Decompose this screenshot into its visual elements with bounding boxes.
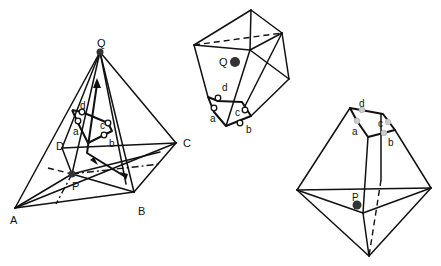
label-a: a (73, 126, 79, 137)
label-C: C (183, 137, 191, 149)
point-Q (97, 49, 104, 56)
diagram-canvas: Q A B C D P d a c b Q d a c b (0, 0, 441, 266)
label-D: D (56, 140, 64, 152)
node-b (101, 132, 107, 138)
label-d-right: d (359, 98, 365, 109)
label-Q-middle: Q (219, 56, 228, 68)
middle-polyhedron: Q d a c b (194, 10, 289, 135)
label-b-middle: b (246, 124, 252, 135)
label-A: A (10, 214, 18, 226)
point-Q-middle (230, 57, 240, 67)
node-a (75, 118, 81, 124)
label-c-middle: c (235, 107, 240, 118)
label-b-right: b (388, 137, 394, 148)
point-P (69, 171, 76, 178)
label-c: c (100, 120, 105, 131)
label-d: d (80, 100, 86, 111)
label-b: b (109, 138, 115, 149)
label-d-middle: d (222, 82, 228, 93)
left-pyramid: Q A B C D P d a c b (10, 37, 191, 226)
label-a-middle: a (210, 113, 216, 124)
label-P: P (72, 180, 79, 192)
node-c (105, 120, 111, 126)
label-c-right: c (378, 118, 383, 129)
label-P-right: P (352, 192, 359, 203)
label-B: B (138, 205, 145, 217)
label-a-right: a (352, 126, 358, 137)
right-bipyramid: P d a c b (297, 98, 431, 256)
label-Q: Q (97, 37, 106, 49)
